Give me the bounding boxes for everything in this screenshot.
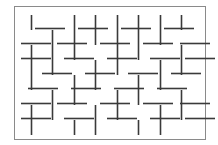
figure-background	[0, 0, 218, 145]
herringbone-pattern-svg	[0, 0, 218, 145]
pattern-figure	[0, 0, 218, 145]
